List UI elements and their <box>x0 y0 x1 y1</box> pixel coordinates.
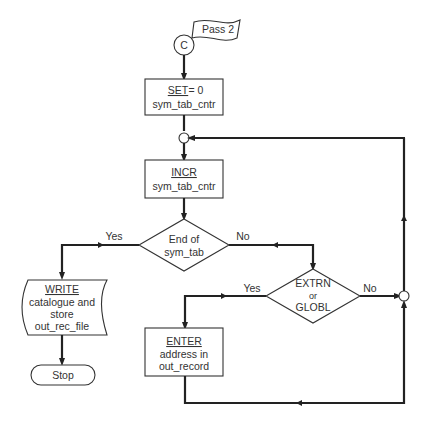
set-keyword: SET <box>168 84 189 96</box>
enter-box: ENTER address in out_record <box>145 328 223 376</box>
svg-text:SET: SET <box>168 84 189 96</box>
write-box: WRITE catalogue and store out_rec_file <box>22 280 107 335</box>
enter-keyword: ENTER <box>166 335 202 347</box>
junction-connector <box>179 133 189 143</box>
write-line4: out_rec_file <box>35 320 89 332</box>
stop-label: Stop <box>52 369 74 381</box>
set-suffix: = 0 <box>189 84 204 96</box>
stop-terminator: Stop <box>31 365 95 385</box>
decision2-no-label: No <box>363 282 377 294</box>
enter-line3: out_record <box>159 360 209 372</box>
enter-line2: address in <box>160 348 209 360</box>
incr-keyword: INCR <box>171 166 197 178</box>
connector-label: C <box>180 39 188 51</box>
decision-end-of-symtab: End of sym_tab <box>139 219 229 271</box>
incr-line2: sym_tab_cntr <box>152 180 216 192</box>
write-line3: store <box>50 308 74 320</box>
decision2-line3: GLOBL <box>295 301 330 313</box>
flowchart: C Pass 2 SET = 0 sym_tab_cntr INCR sym_t… <box>0 0 425 421</box>
set-line2: sym_tab_cntr <box>152 98 216 110</box>
decision1-line1: End of <box>169 233 199 245</box>
write-line2: catalogue and <box>29 296 95 308</box>
flag-label: Pass 2 <box>202 23 234 35</box>
start-connector: C <box>174 35 194 55</box>
write-keyword: WRITE <box>45 283 79 295</box>
right-junction-connector <box>399 291 409 301</box>
decision2-yes-label: Yes <box>243 282 260 294</box>
decision2-line2: or <box>309 291 317 301</box>
pass-flag: Pass 2 <box>192 20 240 42</box>
decision1-no-label: No <box>236 230 250 242</box>
decision1-line2: sym_tab <box>164 246 204 258</box>
decision1-yes-label: Yes <box>105 230 122 242</box>
set-box: SET = 0 sym_tab_cntr <box>145 79 223 115</box>
incr-box: INCR sym_tab_cntr <box>145 160 223 198</box>
decision-extrn-globl: EXTRN or GLOBL <box>266 269 360 323</box>
decision2-line1: EXTRN <box>295 277 331 289</box>
